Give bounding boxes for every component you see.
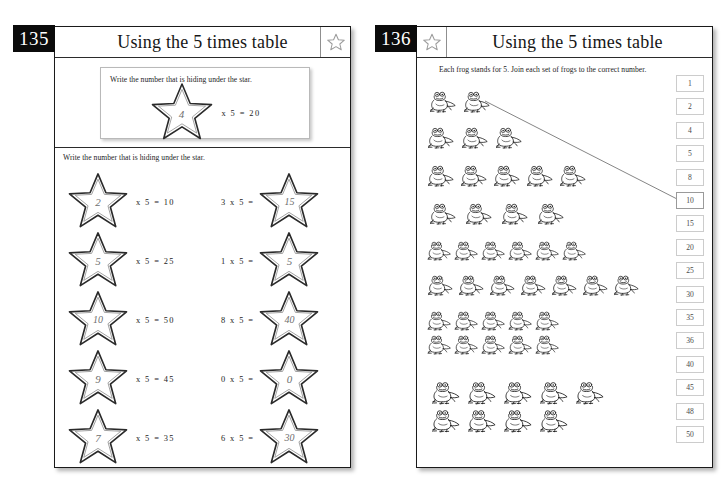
frog-icon (425, 125, 455, 149)
answer-star[interactable]: 5 (67, 230, 129, 292)
problem-8[interactable]: 0 x 5 =0 (221, 350, 351, 408)
left-worksheet-page: 135 Using the 5 times table Write the nu… (0, 0, 365, 496)
frog-icon (557, 163, 587, 187)
number-option-10[interactable]: 10 (676, 192, 704, 209)
answer-star[interactable]: 15 (258, 171, 320, 233)
frog-groups (417, 27, 714, 469)
frog-icon (535, 201, 565, 225)
number-option-20[interactable]: 20 (676, 239, 704, 256)
frog-icon (479, 309, 506, 331)
number-option-45[interactable]: 45 (676, 379, 704, 396)
answer-star[interactable]: 5 (258, 230, 320, 292)
number-option-4[interactable]: 4 (676, 122, 704, 139)
problem-6[interactable]: 8 x 5 =40 (221, 291, 351, 349)
frog-icon (465, 407, 497, 433)
number-option-48[interactable]: 48 (676, 403, 704, 420)
equation-text: x 5 = 10 (136, 198, 175, 207)
number-option-2[interactable]: 2 (676, 98, 704, 115)
number-option-36[interactable]: 36 (676, 332, 704, 349)
equation-text: x 5 = 45 (136, 375, 175, 384)
number-option-40[interactable]: 40 (676, 356, 704, 373)
frog-icon (456, 273, 485, 296)
section-divider (55, 147, 350, 148)
answer-star[interactable]: 0 (258, 348, 320, 410)
frog-row[interactable] (429, 407, 573, 433)
page-number-badge-right: 136 (375, 25, 417, 52)
frog-icon (463, 201, 493, 225)
frog-icon (459, 125, 489, 149)
frog-icon (573, 379, 605, 405)
problem-7[interactable]: 9x 5 = 45 (67, 350, 197, 408)
frog-icon (533, 239, 560, 261)
frog-icon (493, 125, 523, 149)
right-worksheet-page: 136 Using the 5 times table Each frog st… (365, 0, 725, 496)
frog-icon (501, 407, 533, 433)
equation-text: 8 x 5 = (221, 316, 254, 325)
frog-icon (458, 163, 488, 187)
number-option-50[interactable]: 50 (676, 426, 704, 443)
number-option-8[interactable]: 8 (676, 169, 704, 186)
equation-text: x 5 = 50 (136, 316, 175, 325)
frog-row[interactable] (425, 273, 642, 296)
frog-icon (425, 163, 455, 187)
number-options-column: 124581015202530353640454850 (674, 75, 708, 463)
answer-star[interactable]: 40 (258, 289, 320, 351)
frog-row[interactable] (425, 239, 587, 261)
problem-10[interactable]: 6 x 5 =30 (221, 409, 351, 467)
frog-icon (461, 89, 491, 113)
problem-1[interactable]: 2x 5 = 10 (67, 173, 197, 231)
left-page-header: Using the 5 times table (55, 27, 350, 58)
frog-icon (487, 273, 516, 296)
worksheet-spread: 135 Using the 5 times table Write the nu… (0, 0, 725, 496)
equation-text: 3 x 5 = (221, 198, 254, 207)
frog-icon (452, 309, 479, 331)
star-outline-icon (320, 27, 350, 57)
answer-star[interactable]: 2 (67, 171, 129, 233)
frog-row[interactable] (429, 379, 609, 405)
frog-icon (425, 239, 452, 261)
left-page-sheet: Using the 5 times table Write the number… (54, 26, 351, 468)
answer-star[interactable]: 30 (258, 407, 320, 469)
number-option-1[interactable]: 1 (676, 75, 704, 92)
frog-icon (465, 379, 497, 405)
problem-4[interactable]: 1 x 5 =5 (221, 232, 351, 290)
left-page-title: Using the 5 times table (55, 27, 350, 57)
number-option-15[interactable]: 15 (676, 215, 704, 232)
problem-9[interactable]: 7x 5 = 35 (67, 409, 197, 467)
frog-row[interactable] (427, 201, 571, 225)
frog-icon (425, 309, 452, 331)
page-number-badge-left: 135 (13, 25, 55, 52)
frog-icon (501, 379, 533, 405)
frog-icon (580, 273, 609, 296)
problem-3[interactable]: 5x 5 = 25 (67, 232, 197, 290)
number-option-30[interactable]: 30 (676, 286, 704, 303)
frog-icon (533, 333, 560, 355)
equation-text: 6 x 5 = (221, 434, 254, 443)
frog-row[interactable] (425, 309, 560, 331)
answer-star[interactable]: 7 (67, 407, 129, 469)
frog-icon (537, 407, 569, 433)
frog-icon (611, 273, 640, 296)
frog-icon (506, 333, 533, 355)
frog-icon (429, 407, 461, 433)
problem-2[interactable]: 3 x 5 =15 (221, 173, 351, 231)
frog-icon (479, 333, 506, 355)
answer-star[interactable]: 10 (67, 289, 129, 351)
frog-icon (537, 379, 569, 405)
frog-icon (452, 239, 479, 261)
frog-row[interactable] (427, 89, 495, 113)
number-option-35[interactable]: 35 (676, 309, 704, 326)
example-equation: x 5 = 20 (222, 109, 261, 118)
frog-icon (425, 333, 452, 355)
number-option-25[interactable]: 25 (676, 262, 704, 279)
frog-row[interactable] (425, 125, 527, 149)
frog-row[interactable] (425, 333, 560, 355)
frog-row[interactable] (425, 163, 590, 187)
answer-star[interactable]: 9 (67, 348, 129, 410)
problem-5[interactable]: 10x 5 = 50 (67, 291, 197, 349)
frog-icon (533, 309, 560, 331)
frog-icon (427, 201, 457, 225)
number-option-5[interactable]: 5 (676, 145, 704, 162)
frog-icon (549, 273, 578, 296)
frog-icon (524, 163, 554, 187)
